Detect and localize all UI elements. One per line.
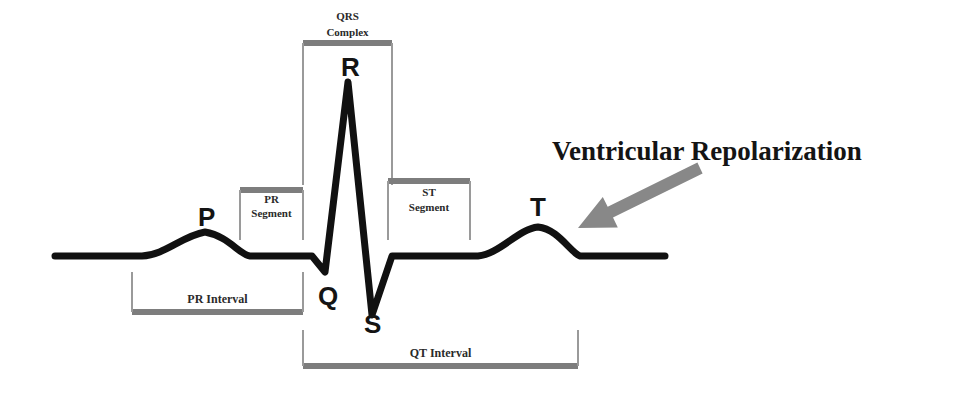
annotation-layer: Ventricular Repolarization bbox=[552, 136, 862, 228]
bracket-label-line2-qrs-complex: Complex bbox=[326, 26, 369, 38]
wave-label-q: Q bbox=[318, 281, 338, 311]
bracket-st-segment: STSegment bbox=[388, 181, 470, 240]
arrow-icon bbox=[578, 163, 703, 228]
ecg-diagram: QRSComplexPRSegmentSTSegmentPR IntervalQ… bbox=[0, 0, 953, 401]
bracket-label-qrs-complex: QRS bbox=[336, 10, 359, 22]
bracket-qt-interval: QT Interval bbox=[303, 330, 578, 366]
wave-label-r: R bbox=[341, 52, 360, 82]
ecg-trace-layer bbox=[55, 82, 665, 315]
bracket-label-qt-interval: QT Interval bbox=[410, 346, 472, 360]
bracket-pr-segment: PRSegment bbox=[240, 190, 303, 240]
wave-label-p: P bbox=[198, 202, 215, 232]
bracket-label-pr-interval: PR Interval bbox=[187, 292, 248, 306]
annotation-label: Ventricular Repolarization bbox=[552, 136, 862, 166]
bracket-label-line2-pr-segment: Segment bbox=[251, 207, 292, 219]
bracket-label-pr-segment: PR bbox=[264, 193, 280, 205]
ecg-svg-canvas: QRSComplexPRSegmentSTSegmentPR IntervalQ… bbox=[0, 0, 953, 401]
wave-label-t: T bbox=[530, 192, 546, 222]
wave-label-s: S bbox=[364, 309, 381, 339]
bracket-label-st-segment: ST bbox=[422, 186, 436, 198]
bracket-label-line2-st-segment: Segment bbox=[409, 201, 450, 213]
bracket-pr-interval: PR Interval bbox=[132, 272, 303, 312]
ecg-waveform-trace bbox=[55, 82, 665, 315]
